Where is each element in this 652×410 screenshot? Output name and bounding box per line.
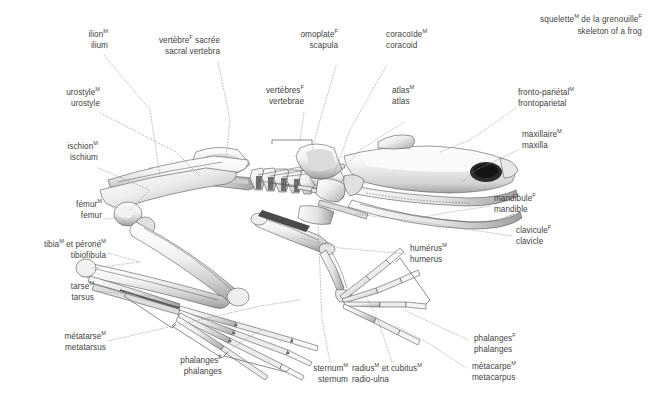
label-urostyle: urostyleM urostyle [8, 88, 100, 109]
label-ilium: ilionM ilium [10, 30, 108, 51]
label-maxilla: maxillaireM maxilla [522, 130, 612, 151]
label-atlas: atlasM atlas [392, 86, 452, 107]
label-frontoparietal: fronto-pariétalM frontoparietal [518, 88, 628, 109]
label-sacral-vertebra: vertèbreF sacrée sacral vertebra [108, 36, 220, 57]
label-clavicle: claviculeF clavicle [516, 226, 606, 247]
label-scapula: omoplateF scapula [258, 30, 338, 51]
figure-title-en: skeleton of a frog [540, 26, 642, 38]
label-mandible: mandibuleF mandible [494, 194, 584, 215]
figure-title: squeletteM de la grenouilleF skeleton of… [540, 14, 642, 37]
frog-skeleton-figure: squeletteM de la grenouilleF skeleton of… [0, 0, 652, 410]
label-sternum: sternumM sternum [288, 364, 348, 385]
label-coracoid: coracoïdeM coracoid [386, 30, 466, 51]
label-humerus: humérusM humerus [410, 244, 490, 265]
label-phalanges-hand: phalangesF phalanges [474, 334, 554, 355]
label-vertebrae: vertèbresF vertebrae [236, 86, 304, 107]
label-metatarsus: métatarseM metatarsus [10, 332, 106, 353]
label-tibiofibula: tibiaM et péronéM tibiofibula [6, 240, 106, 261]
label-phalanges-foot: phalangesF phalanges [142, 356, 222, 377]
label-metacarpus: métacarpeM metacarpus [472, 362, 562, 383]
figure-title-fr: squeletteM de la grenouilleF [540, 14, 642, 26]
label-radio-ulna: radiusM et cubitusM radio-ulna [352, 364, 462, 385]
label-femur: fémurM femur [14, 200, 102, 221]
label-tarsus: tarseM tarsus [18, 282, 94, 303]
label-ischium: ischionM ischium [10, 142, 98, 163]
